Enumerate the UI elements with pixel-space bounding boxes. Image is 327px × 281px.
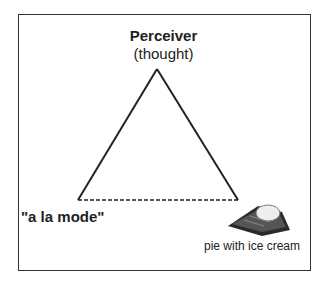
pie-with-ice-cream-icon <box>228 205 290 236</box>
right-vertex-label: pie with ice cream <box>204 239 300 253</box>
edge-apex-left <box>78 69 157 200</box>
apex-subtitle: (thought) <box>0 45 327 62</box>
edge-apex-right <box>157 69 238 200</box>
left-vertex-label: "a la mode" <box>21 208 104 225</box>
apex-title: Perceiver <box>0 27 327 44</box>
